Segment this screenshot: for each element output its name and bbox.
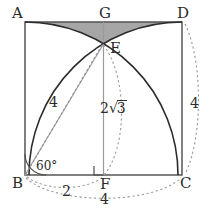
right-angle-marker-at-f	[94, 166, 104, 175]
measure-label-right-side: 4	[190, 96, 199, 110]
point-label-f: F	[100, 177, 110, 192]
radical-radicand: 3	[117, 100, 127, 116]
segment-be-dotted	[26, 45, 102, 174]
point-label-g: G	[99, 6, 111, 21]
measure-label-height-ef: 2√3	[100, 100, 127, 116]
point-label-e: E	[110, 41, 121, 56]
measure-label-angle-ebf: 60°	[36, 160, 57, 172]
vertex-label-c: C	[180, 176, 191, 191]
vertex-label-b: B	[12, 176, 23, 191]
measure-label-left-radius: 4	[49, 95, 58, 109]
vertex-label-d: D	[177, 6, 189, 21]
measure-label-full-base: 4	[100, 192, 109, 206]
vertex-label-a: A	[12, 6, 23, 21]
radical-expression: 2√3	[100, 100, 127, 116]
geometry-figure-canvas: A D C B G F E 4 4 2√3 2 4 60°	[0, 0, 212, 210]
radical-coefficient: 2	[100, 100, 109, 116]
measure-label-half-base: 2	[62, 184, 71, 198]
